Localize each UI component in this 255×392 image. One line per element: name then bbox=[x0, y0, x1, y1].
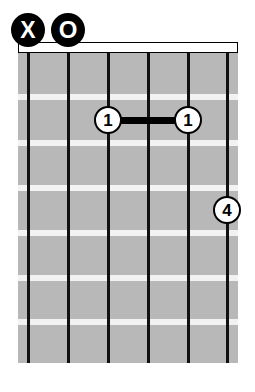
nut-bar bbox=[18, 42, 238, 53]
chord-diagram: X O 1 1 4 bbox=[0, 0, 255, 392]
fret-line bbox=[18, 185, 238, 191]
finger-dot[interactable]: 1 bbox=[94, 106, 122, 134]
finger-dot[interactable]: 1 bbox=[174, 106, 202, 134]
string-line bbox=[147, 52, 150, 363]
string-line bbox=[27, 52, 30, 363]
finger-dot[interactable]: 4 bbox=[213, 196, 241, 224]
fret-line bbox=[18, 140, 238, 146]
fret-line bbox=[18, 319, 238, 325]
fret-line bbox=[18, 275, 238, 281]
fret-line bbox=[18, 94, 238, 100]
string-line bbox=[107, 52, 110, 363]
muted-string-marker[interactable]: X bbox=[11, 13, 45, 47]
fret-line bbox=[18, 230, 238, 236]
string-line bbox=[187, 52, 190, 363]
open-string-marker[interactable]: O bbox=[51, 13, 85, 47]
string-line bbox=[67, 52, 70, 363]
